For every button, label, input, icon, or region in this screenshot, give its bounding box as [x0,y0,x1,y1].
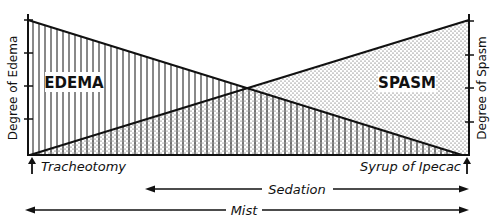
up-arrow-icon [28,157,36,164]
sedation-label: Sedation [268,182,325,197]
right-arrowhead-icon [459,207,469,214]
right-axis-label: Degree of Spasm [475,36,489,139]
edema-spasm-diagram: Degree of Edema Degree of Spasm EDEMA SP… [0,0,493,223]
left-arrowhead-icon [145,186,155,193]
spasm-label: SPASM [378,74,436,92]
left-arrowhead-icon [25,207,35,214]
left-axis-label: Degree of Edema [6,36,20,141]
mist-label: Mist [231,203,259,218]
ipecac-marker [463,157,471,174]
up-arrow-icon [463,157,471,164]
right-arrowhead-icon [459,186,469,193]
tracheotomy-marker [28,157,36,174]
tracheotomy-label: Tracheotomy [41,159,126,174]
edema-label: EDEMA [44,74,104,92]
ipecac-label: Syrup of Ipecac [360,159,461,174]
